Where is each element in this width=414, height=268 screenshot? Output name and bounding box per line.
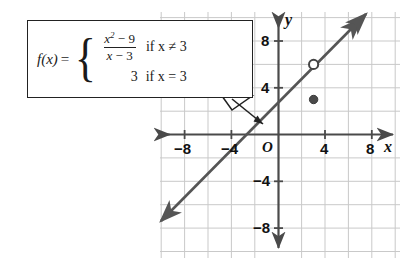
formula-callout-box: f(x) = { x2 − 9 x − 3 if x ≠ 3 3 if x = … — [27, 20, 253, 98]
y-tick-label-4: 4 — [261, 79, 269, 96]
case-row-2: 3 if x = 3 — [101, 66, 186, 88]
piecewise-function-figure: f(x) = { x2 − 9 x − 3 if x ≠ 3 3 if x = … — [0, 0, 414, 268]
brace-icon: { — [75, 39, 96, 76]
function-name: f(x) — [37, 51, 58, 68]
case-row-1: x2 − 9 x − 3 if x ≠ 3 — [101, 31, 186, 64]
x-tick-label-neg8: −8 — [174, 140, 191, 157]
fraction-numerator: x2 − 9 — [101, 31, 138, 47]
fraction-denominator: x − 3 — [104, 47, 136, 63]
fraction-expression: x2 − 9 x − 3 — [101, 31, 138, 63]
filled-dot-point — [309, 95, 317, 103]
case-1-condition: if x ≠ 3 — [146, 39, 187, 55]
y-tick-label-neg8: −8 — [253, 219, 270, 236]
y-tick-label-neg4: −4 — [253, 172, 270, 189]
open-circle-point — [309, 60, 318, 69]
origin-label: O — [262, 139, 273, 156]
x-axis-label: x — [384, 138, 392, 156]
case-2-condition: if x = 3 — [146, 69, 187, 85]
y-tick-label-8: 8 — [261, 32, 269, 49]
x-tick-label-4: 4 — [320, 140, 328, 157]
y-axis-label: y — [285, 11, 292, 29]
x-tick-label-8: 8 — [366, 140, 374, 157]
case-2-value: 3 — [131, 69, 138, 85]
equals-sign: = — [61, 51, 69, 68]
x-tick-label-neg4: −4 — [221, 140, 238, 157]
